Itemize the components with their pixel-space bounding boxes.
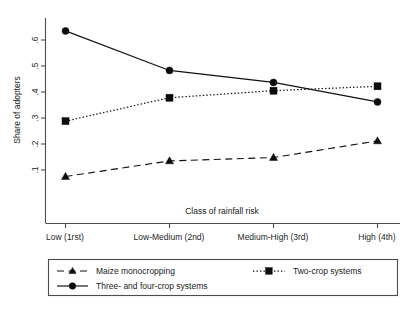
square-marker-icon (166, 94, 173, 101)
chart-figure: .6 .5 .4 .3 .2 .1 Share of adopters Low … (0, 0, 413, 313)
square-marker-icon (266, 268, 273, 275)
series-line (66, 141, 378, 177)
square-marker-icon (270, 87, 277, 94)
series-layer (62, 27, 382, 179)
series-line (66, 86, 378, 121)
y-tick-label-1: .1 (30, 166, 40, 173)
series-maize-monocropping (62, 137, 382, 180)
x-tick-label-4: High (4th) (358, 232, 395, 242)
series-line (66, 31, 378, 102)
x-axis-title: Class of rainfall risk (185, 206, 259, 216)
x-tick-label-3: Medium-High (3rd) (238, 232, 309, 242)
y-tick-label-4: .4 (30, 88, 40, 95)
y-tick-label-5: .5 (30, 62, 40, 69)
series-two-crop-systems (62, 83, 381, 125)
triangle-marker-icon (374, 137, 382, 144)
circle-marker-icon (166, 67, 173, 74)
y-tick-label-3: .3 (30, 114, 40, 121)
circle-marker-icon (69, 283, 76, 290)
chart-canvas: .6 .5 .4 .3 .2 .1 Share of adopters Low … (0, 0, 413, 313)
square-marker-icon (374, 83, 381, 90)
x-tick-label-2: Low-Medium (2nd) (134, 232, 205, 242)
circle-marker-icon (374, 98, 381, 105)
y-axis-title: Share of adopters (12, 76, 22, 144)
y-axis-ticks (41, 40, 46, 170)
circle-marker-icon (62, 27, 69, 34)
y-tick-label-6: .6 (30, 36, 40, 43)
square-marker-icon (62, 118, 69, 125)
x-axis-ticks (66, 224, 378, 229)
legend-label-two-crop-systems: Two-crop systems (293, 266, 362, 276)
x-tick-label-1: Low (1rst) (46, 232, 84, 242)
legend-label-three-and-four-crop-systems: Three- and four-crop systems (96, 281, 207, 291)
y-tick-label-2: .2 (30, 140, 40, 147)
circle-marker-icon (270, 79, 277, 86)
legend-label-maize-monocropping: Maize monocropping (96, 266, 175, 276)
